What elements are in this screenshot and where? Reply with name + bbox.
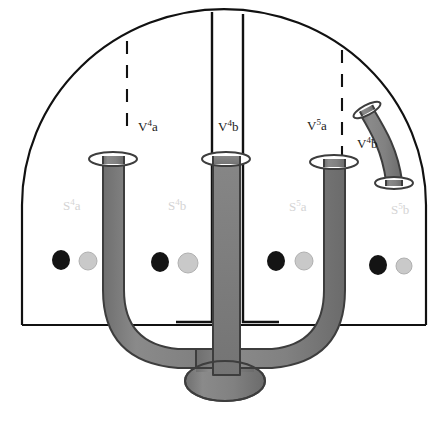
tube-v4b-detached-bottom-rim [375,177,413,189]
vessel-label-v4a-tail: a [152,119,158,134]
dot-dark-2 [151,252,169,272]
anatomical-schematic-figure: S4a S4b S5a S5b V4a V4b V5a V4 [0,0,448,421]
dot-light-4 [396,258,412,274]
vessel-label-v5a-tail: a [321,118,327,133]
tube-v4b-rim [202,152,250,166]
dot-dark-1 [52,250,70,270]
tube-v4b [213,160,240,375]
dot-dark-4 [369,255,387,275]
chamber-label-s5b-tail: b [403,202,410,217]
chamber-label-s4a-base: S [63,198,70,213]
dot-light-2 [178,253,198,273]
vessel-label-v4b-right-tail: b [371,136,378,151]
chamber-label-s5b-base: S [391,202,398,217]
dot-light-1 [79,252,97,270]
tube-v5a-rim [310,155,358,169]
dot-dark-3 [267,251,285,271]
figure-canvas: S4a S4b S5a S5b V4a V4b V5a V4 [0,0,448,421]
chamber-label-s5a-base: S [289,199,296,214]
vessel-label-v4b-tail: b [232,119,239,134]
chamber-label-s4b-base: S [168,198,175,213]
chamber-label-s5a-tail: a [301,199,307,214]
dot-light-3 [295,252,313,270]
chamber-label-s4b-tail: b [180,198,187,213]
tube-v4a-rim [89,152,137,166]
chamber-label-s4a-tail: a [75,198,81,213]
